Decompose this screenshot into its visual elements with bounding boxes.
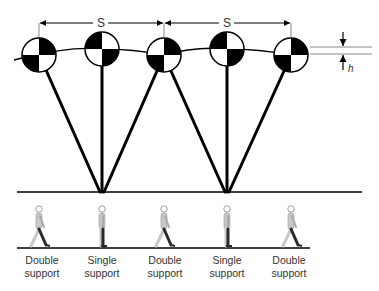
walker-figure xyxy=(156,206,175,246)
leg-line xyxy=(46,70,100,192)
leg-line xyxy=(171,71,225,192)
walker-head xyxy=(288,206,294,212)
walker-leg xyxy=(156,229,164,246)
gait-diagram: S S h xyxy=(0,0,379,291)
phase-label: Double support xyxy=(254,254,324,280)
phase-label-line2: support xyxy=(192,267,262,280)
phase-label: Single support xyxy=(192,254,262,280)
phase-label: Double support xyxy=(130,254,200,280)
walker-head xyxy=(99,206,105,212)
phase-label-line1: Double xyxy=(130,254,200,267)
walker-leg xyxy=(164,229,171,245)
com-markers xyxy=(22,32,308,72)
walker-figure xyxy=(224,206,232,246)
step-length-label: S xyxy=(223,16,231,30)
walker-foot xyxy=(46,245,50,246)
phase-label-line2: support xyxy=(254,267,324,280)
com-marker xyxy=(210,32,244,66)
walker-figures xyxy=(31,206,302,246)
walker-leg xyxy=(291,229,298,245)
walker-head xyxy=(161,206,167,212)
phase-label-line1: Double xyxy=(254,254,324,267)
leg-line xyxy=(229,71,284,192)
phase-label-line2: support xyxy=(67,267,137,280)
walker-leg xyxy=(39,229,46,245)
step-length-label: S xyxy=(97,16,105,30)
com-marker xyxy=(274,38,308,72)
phase-label-line2: support xyxy=(130,267,200,280)
legs xyxy=(46,66,284,192)
phase-label-line1: Single xyxy=(67,254,137,267)
com-marker xyxy=(22,38,56,72)
height-label: h xyxy=(348,63,354,74)
walker-foot xyxy=(298,245,302,246)
step-length-dimension: S S xyxy=(39,16,291,37)
phase-label: Single support xyxy=(67,254,137,280)
walker-foot xyxy=(171,245,175,246)
leg-line xyxy=(104,71,157,192)
walker-figure xyxy=(99,206,107,246)
phase-label-line1: Single xyxy=(192,254,262,267)
walker-figure xyxy=(31,206,50,246)
com-marker xyxy=(85,32,119,66)
walker-head xyxy=(36,206,42,212)
walker-leg xyxy=(283,229,291,246)
height-dimension: h xyxy=(310,32,372,74)
walker-figure xyxy=(283,206,302,246)
walker-head xyxy=(224,206,230,212)
com-marker xyxy=(147,38,181,72)
walker-leg xyxy=(31,229,39,246)
